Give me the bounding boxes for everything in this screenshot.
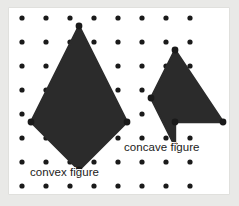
peg-dot — [139, 111, 144, 116]
peg-dot — [43, 15, 48, 20]
peg-dot — [67, 15, 72, 20]
peg-dot — [91, 159, 96, 164]
convex-kite — [31, 26, 127, 170]
peg-dot — [163, 159, 168, 164]
peg-dot — [187, 183, 192, 188]
peg-dot — [115, 183, 120, 188]
peg-dot — [43, 159, 48, 164]
peg-dot — [91, 15, 96, 20]
geoboard-figure: convex figure concave figure — [0, 0, 239, 206]
peg-dot — [115, 159, 120, 164]
peg-dot — [19, 63, 24, 68]
peg-dot — [139, 15, 144, 20]
peg-dot — [19, 39, 24, 44]
peg-dot — [187, 159, 192, 164]
convex-figure-label: convex figure — [30, 166, 99, 179]
peg-dot — [115, 63, 120, 68]
peg-dot — [187, 135, 192, 140]
peg-dot — [139, 63, 144, 68]
peg-dot — [19, 159, 24, 164]
peg-dot — [115, 39, 120, 44]
shape-vertex-peg — [172, 119, 179, 126]
peg-dot — [139, 183, 144, 188]
peg-dot — [139, 87, 144, 92]
peg-dot — [187, 15, 192, 20]
peg-dot — [19, 111, 24, 116]
peg-dot — [19, 135, 24, 140]
shape-vertex-peg — [220, 119, 227, 126]
peg-dot — [139, 135, 144, 140]
shape-vertex-peg — [28, 119, 35, 126]
peg-dot — [43, 39, 48, 44]
peg-dot — [163, 135, 168, 140]
shape-vertex-peg — [172, 47, 179, 54]
peg-dot — [43, 183, 48, 188]
concave-figure-label: concave figure — [124, 141, 200, 154]
peg-dot — [187, 39, 192, 44]
peg-dot — [91, 39, 96, 44]
peg-dot — [139, 159, 144, 164]
peg-dot — [19, 15, 24, 20]
shape-vertex-peg — [148, 95, 155, 102]
peg-dot — [19, 87, 24, 92]
peg-dot — [139, 39, 144, 44]
peg-dot — [19, 183, 24, 188]
peg-dot — [115, 15, 120, 20]
peg-dot — [115, 135, 120, 140]
peg-dot — [91, 183, 96, 188]
peg-dot — [43, 63, 48, 68]
peg-dot — [67, 183, 72, 188]
peg-dot — [163, 183, 168, 188]
shape-vertex-peg — [124, 119, 131, 126]
shape-vertex-peg — [76, 23, 83, 30]
peg-dot — [163, 15, 168, 20]
peg-dot — [163, 39, 168, 44]
peg-dot — [115, 87, 120, 92]
concave-arrow — [151, 50, 223, 146]
